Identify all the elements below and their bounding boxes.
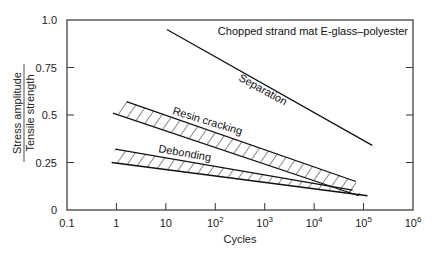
y-axis-label-denominator: Tensile strength [24,74,36,151]
y-tick-label: 1.0 [42,14,57,26]
series-layer [112,30,373,196]
x-tick-label: 0.1 [59,217,74,229]
x-axis-label: Cycles [223,233,257,245]
resin-cracking-band-hatch [113,102,359,196]
x-tick-label: 10 [160,217,172,229]
x-tick-label: 106 [405,215,422,229]
annotation-separation: Separation [237,71,289,107]
fatigue-chart: 0.1110102103104105106 00.250.50.751.0 Ch… [0,0,433,255]
x-tick-label: 102 [207,215,224,229]
x-axis: 0.1110102103104105106 [59,203,422,229]
y-tick-label: 0.75 [36,62,57,74]
x-tick-label: 105 [355,215,372,229]
x-tick-label: 103 [256,215,273,229]
y-axis-label: Stress amplitude Tensile strength [11,64,36,162]
y-tick-label: 0 [51,204,57,216]
y-tick-label: 0.25 [36,157,57,169]
chart-title: Chopped strand mat E-glass–polyester [218,25,408,37]
x-tick-label: 104 [306,215,323,229]
y-axis-label-numerator: Stress amplitude [11,72,23,154]
y-tick-label: 0.5 [42,109,57,121]
x-tick-label: 1 [113,217,119,229]
